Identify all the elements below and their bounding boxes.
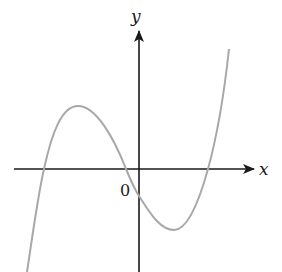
cubic-function-graph: y x 0 [0, 0, 282, 272]
y-axis-label: y [130, 6, 141, 26]
origin-label: 0 [120, 181, 130, 200]
cubic-curve [27, 49, 229, 272]
x-axis-label: x [259, 159, 269, 179]
